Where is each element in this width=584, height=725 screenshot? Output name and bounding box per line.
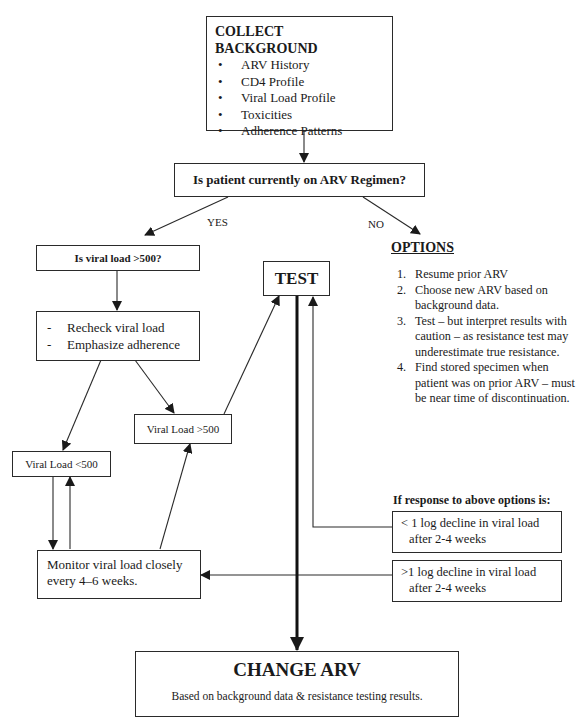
question-viral-load-text: Is viral load >500? [74,252,161,264]
options-panel: OPTIONS 1.Resume prior ARV 2.Choose new … [391,240,577,407]
viral-load-low-box: Viral Load <500 [12,451,111,477]
monitor-line-1: Monitor viral load closely [47,557,200,573]
no-label: NO [368,218,384,230]
question-on-arv-regimen: Is patient currently on ARV Regimen? [174,163,425,197]
test-box: TEST [263,261,330,296]
monitor-line-2: every 4–6 weeks. [47,573,200,589]
viral-load-high-box: Viral Load >500 [134,414,232,444]
recheck-item-adherence: -Emphasize adherence [41,337,195,354]
collect-background-title: COLLECT BACKGROUND [215,23,384,57]
less-decline-line-1: < 1 log decline in viral load [401,516,561,532]
test-label: TEST [275,269,318,289]
background-item-adherence-patterns: Adherence Patterns [215,123,384,140]
viral-load-low-label: Viral Load <500 [25,458,98,470]
less-decline-line-2: after 2-4 weeks [401,532,561,548]
monitor-box: Monitor viral load closely every 4–6 wee… [37,550,201,599]
response-title: If response to above options is: [393,493,550,508]
question-viral-load-over-500: Is viral load >500? [36,245,200,271]
change-arv-subtitle: Based on background data & resistance te… [136,690,458,702]
background-item-viral-load-profile: Viral Load Profile [215,90,384,107]
option-item-1: 1.Resume prior ARV [397,267,577,283]
change-arv-box: CHANGE ARV Based on background data & re… [135,651,459,717]
background-list: ARV History CD4 Profile Viral Load Profi… [215,57,384,140]
less-than-1-log-decline-box: < 1 log decline in viral load after 2-4 … [392,511,562,553]
background-item-toxicities: Toxicities [215,107,384,124]
options-title: OPTIONS [391,240,577,256]
options-list: 1.Resume prior ARV 2.Choose new ARV base… [397,267,577,407]
background-item-arv-history: ARV History [215,57,384,74]
recheck-box: -Recheck viral load -Emphasize adherence [36,311,200,361]
more-decline-line-2: after 2-4 weeks [401,581,561,597]
option-item-2: 2.Choose new ARV based on background dat… [397,283,577,314]
option-item-4: 4.Find stored specimen when patient was … [397,360,577,407]
viral-load-high-label: Viral Load >500 [147,423,220,435]
recheck-item-viral-load: -Recheck viral load [41,320,195,337]
yes-label: YES [207,216,228,228]
option-item-3: 3.Test – but interpret results with caut… [397,314,577,361]
background-item-cd4-profile: CD4 Profile [215,74,384,91]
more-decline-line-1: >1 log decline in viral load [401,565,561,581]
question-on-arv-regimen-text: Is patient currently on ARV Regimen? [193,172,406,188]
change-arv-title: CHANGE ARV [136,659,458,681]
more-than-1-log-decline-box: >1 log decline in viral load after 2-4 w… [392,560,562,602]
collect-background-box: COLLECT BACKGROUND ARV History CD4 Profi… [206,16,393,131]
